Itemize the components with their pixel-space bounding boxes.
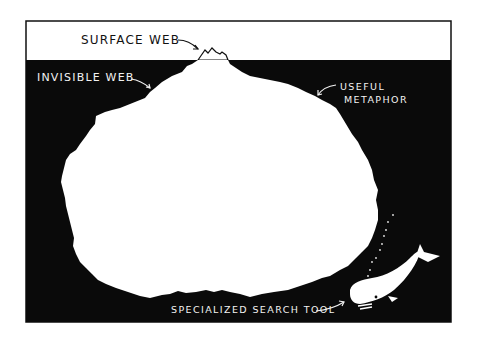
useful-metaphor-label: USEFUL METAPHOR	[338, 80, 408, 106]
useful-metaphor-line1: USEFUL	[338, 80, 408, 93]
illustration-svg	[0, 0, 477, 340]
surface-web-label: SURFACE WEB	[81, 34, 180, 46]
invisible-web-label: INVISIBLE WEB	[37, 72, 135, 84]
specialized-search-tool-label: SPECIALIZED SEARCH TOOL	[171, 304, 335, 316]
useful-metaphor-line2: METAPHOR	[338, 93, 408, 106]
iceberg-illustration: SURFACE WEB INVISIBLE WEB USEFUL METAPHO…	[0, 0, 477, 340]
